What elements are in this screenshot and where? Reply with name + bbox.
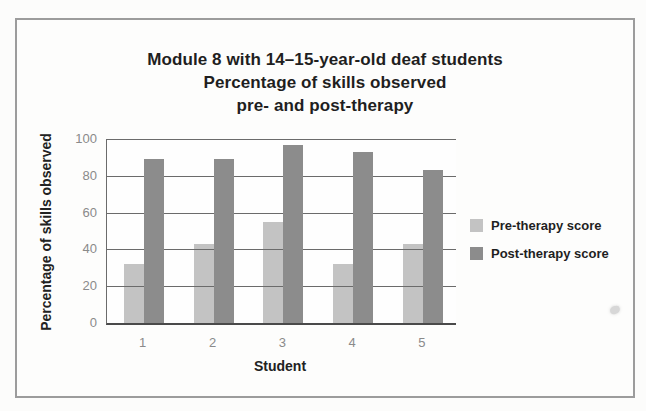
scan-smudge xyxy=(609,305,620,315)
x-axis-title: Student xyxy=(180,358,380,374)
bar-pre-therapy-student-5 xyxy=(403,244,423,323)
x-tick-label-4: 4 xyxy=(332,335,372,351)
legend-label-post-therapy: Post-therapy score xyxy=(491,246,609,261)
y-tick-label-0: 0 xyxy=(37,315,97,331)
bar-pre-therapy-student-4 xyxy=(333,264,353,323)
bar-post-therapy-student-5 xyxy=(423,170,443,323)
bar-pre-therapy-student-2 xyxy=(194,244,214,323)
x-tick-label-2: 2 xyxy=(193,335,233,351)
y-tick-label-20: 20 xyxy=(37,278,97,294)
bar-post-therapy-student-4 xyxy=(353,152,373,323)
chart-title: Module 8 with 14–15-year-old deaf studen… xyxy=(17,48,633,117)
gridline-100 xyxy=(107,139,456,140)
y-tick-label-60: 60 xyxy=(37,205,97,221)
legend-label-pre-therapy: Pre-therapy score xyxy=(491,218,602,233)
scanned-page: { "chart_data": { "type": "bar", "title"… xyxy=(0,0,646,411)
chart-title-line-2: Percentage of skills observed xyxy=(17,71,633,94)
bar-post-therapy-student-2 xyxy=(214,159,234,323)
legend-item-pre-therapy: Pre-therapy score xyxy=(470,218,609,233)
chart-title-line-1: Module 8 with 14–15-year-old deaf studen… xyxy=(17,48,633,71)
post-therapy-swatch-icon xyxy=(470,247,483,260)
bar-post-therapy-student-1 xyxy=(144,159,164,323)
bar-pre-therapy-student-1 xyxy=(124,264,144,323)
y-tick-label-80: 80 xyxy=(37,168,97,184)
pre-therapy-swatch-icon xyxy=(470,219,483,232)
y-tick-label-40: 40 xyxy=(37,241,97,257)
x-axis-ticks: 12345 xyxy=(106,335,455,351)
x-tick-label-3: 3 xyxy=(262,335,302,351)
figure-frame: Module 8 with 14–15-year-old deaf studen… xyxy=(15,18,635,398)
x-tick-label-5: 5 xyxy=(402,335,442,351)
plot-area xyxy=(106,139,456,325)
legend: Pre-therapy scorePost-therapy score xyxy=(470,218,609,274)
bar-post-therapy-student-3 xyxy=(283,145,303,323)
y-tick-label-100: 100 xyxy=(37,131,97,147)
legend-item-post-therapy: Post-therapy score xyxy=(470,246,609,261)
y-axis-ticks: 020406080100 xyxy=(17,139,101,329)
bar-pre-therapy-student-3 xyxy=(263,222,283,323)
chart-title-line-3: pre- and post-therapy xyxy=(17,94,633,117)
x-tick-label-1: 1 xyxy=(123,335,163,351)
